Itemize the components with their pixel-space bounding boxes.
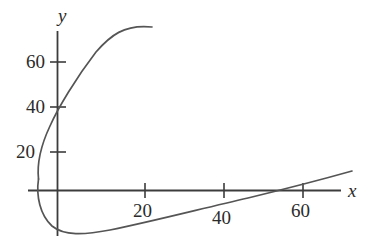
y-tick-label-40: 40 — [26, 96, 45, 118]
x-axis-label: x — [348, 180, 356, 202]
x-tick-label-60: 60 — [291, 200, 310, 222]
y-tick-label-60: 60 — [26, 51, 45, 73]
x-tick-label-40: 40 — [212, 207, 231, 229]
y-tick-label-20: 20 — [16, 141, 35, 163]
plot-canvas — [0, 0, 370, 244]
y-axis-label: y — [58, 5, 66, 27]
parabola-upper-branch — [38, 27, 152, 179]
parabola-figure: 60 40 20 20 40 60 y x — [0, 0, 370, 244]
x-tick-label-20: 20 — [133, 200, 152, 222]
